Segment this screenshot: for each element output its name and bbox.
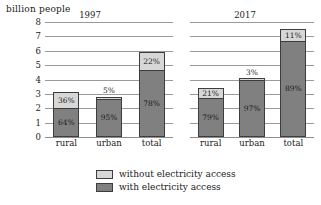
bar-segment-without-rural: 36%: [54, 93, 78, 108]
panel-title-2017: 2017: [210, 10, 280, 20]
y-axis-tick-label: 4: [36, 75, 41, 84]
y-axis-tick-label: 8: [36, 18, 41, 27]
bar-label-with-urban: 95%: [101, 114, 118, 122]
bar-label-without-total: 22%: [143, 58, 160, 66]
y-axis-tick-label: 1: [36, 118, 41, 127]
bar-label-without-urban: 5%: [103, 87, 115, 95]
bar-label-with-urban: 97%: [244, 105, 261, 113]
panel-title-1997: 1997: [55, 10, 125, 20]
legend-swatch-with-icon: [96, 183, 113, 192]
plot-area-1997: 01234567836%64%rural5%95%urban22%78%tota…: [45, 22, 173, 138]
x-axis-tick-urban: urban: [239, 139, 265, 148]
gridline: [45, 22, 173, 23]
bar-segment-with-total: 89%: [281, 42, 305, 136]
bar-segment-with-urban: 95%: [97, 100, 121, 136]
electricity-access-chart: billion people 1997 2017 01234567836%64%…: [0, 0, 321, 205]
bar-rural: 21%79%rural: [198, 88, 224, 137]
bar-segment-with-total: 78%: [140, 71, 164, 136]
x-axis-tick-urban: urban: [96, 139, 122, 148]
bar-label-with-total: 89%: [285, 85, 302, 93]
bar-urban: 95%urban: [96, 97, 122, 137]
bar-label-with-total: 78%: [143, 100, 160, 108]
legend-item-without: without electricity access: [96, 169, 236, 180]
bar-rural: 36%64%rural: [53, 92, 79, 137]
bar-label-without-rural: 36%: [58, 97, 75, 105]
bar-segment-without-total: 11%: [281, 30, 305, 42]
bar-label-without-urban: 3%: [246, 69, 258, 77]
bar-label-without-rural: 21%: [202, 90, 219, 98]
bar-urban: 97%urban: [239, 78, 265, 137]
bar-segment-with-rural: 64%: [54, 109, 78, 136]
legend-swatch-without-icon: [96, 170, 113, 179]
bar-label-without-total: 11%: [285, 32, 302, 40]
x-axis-tick-rural: rural: [56, 139, 77, 148]
bar-total: 11%89%total: [280, 29, 306, 137]
y-axis-tick-label: 6: [36, 47, 41, 56]
gridline: [190, 22, 314, 23]
legend-label-without: without electricity access: [119, 170, 236, 179]
bar-total: 22%78%total: [139, 52, 165, 137]
y-axis-tick-label: 3: [36, 90, 41, 99]
bar-segment-without-rural: 21%: [199, 89, 223, 99]
bar-segment-without-total: 22%: [140, 53, 164, 71]
legend-item-with: with electricity access: [96, 182, 236, 193]
y-axis-tick-label: 5: [36, 61, 41, 70]
x-axis-tick-rural: rural: [200, 139, 221, 148]
bar-segment-with-urban: 97%: [240, 81, 264, 136]
x-axis-tick-total: total: [142, 139, 162, 148]
y-axis-tick-label: 0: [36, 133, 41, 142]
y-axis-tick-label: 2: [36, 104, 41, 113]
bar-label-with-rural: 79%: [202, 114, 219, 122]
legend-label-with: with electricity access: [119, 183, 221, 192]
bar-label-with-rural: 64%: [58, 119, 75, 127]
plot-area-2017: 21%79%rural3%97%urban11%89%total: [190, 22, 314, 138]
y-axis-tick-label: 7: [36, 32, 41, 41]
chart-legend: without electricity access with electric…: [96, 169, 236, 193]
gridline: [45, 36, 173, 37]
x-axis-tick-total: total: [283, 139, 303, 148]
bar-segment-with-rural: 79%: [199, 99, 223, 136]
